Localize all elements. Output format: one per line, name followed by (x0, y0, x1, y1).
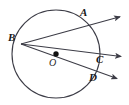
geometry-canvas (0, 0, 129, 105)
center-point-marker (53, 51, 58, 56)
ray-b-to-c (21, 44, 121, 57)
point-label-d: D (89, 72, 97, 83)
geometry-figure: A B C D O (0, 0, 129, 105)
point-label-a: A (80, 7, 87, 18)
point-label-b: B (8, 32, 15, 43)
ray-b-to-a (21, 17, 120, 44)
point-label-o: O (49, 58, 56, 68)
point-label-c: C (96, 54, 103, 65)
